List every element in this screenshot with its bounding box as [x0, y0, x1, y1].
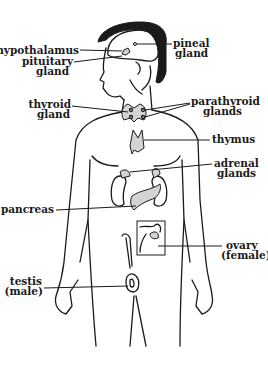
chest-line-left	[92, 156, 118, 166]
left-leg-outer	[88, 220, 96, 346]
right-leg-outer	[180, 220, 184, 346]
thyroid-gland-shape	[122, 104, 146, 122]
thyroid-leader	[72, 106, 128, 112]
ductus-deferens	[122, 234, 132, 268]
right-shoulder-arm	[152, 110, 213, 314]
neck-right	[150, 86, 152, 110]
testis-inner	[130, 279, 134, 287]
ovary-shape	[150, 232, 158, 239]
label-adrenal-line2: glands	[217, 167, 256, 179]
label-pineal-line2: gland	[175, 47, 209, 59]
pancreas-leader	[56, 206, 136, 210]
left-inner-arm	[80, 160, 90, 262]
leader-lines	[44, 44, 222, 288]
pituitary-gland-shape	[122, 48, 130, 55]
adrenal-leader	[130, 164, 212, 172]
label-parathyroid-line2: glands	[203, 105, 242, 117]
hypothalamus-leader	[80, 50, 122, 51]
labels: hypothalamus pituitary gland pineal glan…	[0, 37, 268, 297]
testis-leader	[44, 286, 128, 288]
label-thyroid-line2: gland	[37, 108, 71, 120]
label-testis-line2: (male)	[4, 285, 43, 297]
label-ovary-line2: (female)	[221, 249, 268, 261]
label-pancreas: pancreas	[1, 203, 54, 215]
thymus-shape	[130, 130, 144, 154]
inner-leg-right	[136, 296, 146, 346]
left-adrenal-shape	[120, 170, 130, 178]
left-kidney	[111, 176, 126, 206]
ovary-inner	[140, 234, 146, 252]
endocrine-system-diagram: hypothalamus pituitary gland pineal glan…	[0, 0, 268, 366]
fallopian-tube	[140, 224, 161, 232]
ear	[136, 62, 140, 74]
torso	[55, 86, 212, 346]
head	[98, 22, 166, 100]
label-thymus: thymus	[212, 133, 255, 145]
inner-leg-left	[130, 296, 134, 346]
jaw	[130, 80, 142, 94]
pineal-gland-shape	[134, 43, 137, 46]
chest-line-right	[154, 156, 180, 166]
pituitary-leader	[74, 56, 122, 62]
label-pituitary-line2: gland	[36, 65, 70, 77]
testis-shape	[126, 274, 139, 292]
